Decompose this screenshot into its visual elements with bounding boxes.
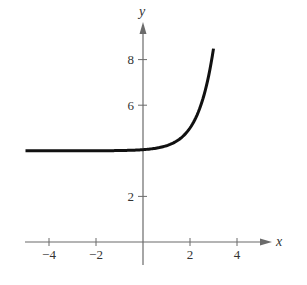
y-axis-label: y [137,4,146,19]
x-axis-label: x [275,234,283,249]
x-tick-label: −2 [89,247,103,262]
x-tick-label: 2 [187,247,194,262]
x-tick-label: −4 [42,247,56,262]
y-axis-arrow-icon [140,22,147,34]
x-axis-arrow-icon [260,239,272,246]
x-tick-label: 4 [234,247,241,262]
y-ticks: 268 [128,52,148,204]
y-tick-label: 8 [128,52,135,67]
y-tick-label: 2 [128,189,135,204]
function-curve [26,49,214,151]
y-tick-label: 6 [128,98,135,113]
chart-canvas: x y −4−224 268 [0,0,307,285]
